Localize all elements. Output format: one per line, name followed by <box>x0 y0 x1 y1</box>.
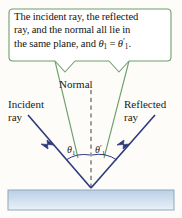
callout-box <box>9 9 171 72</box>
callout-tail-left-icon <box>55 61 78 158</box>
figure-vector-layer <box>0 0 182 218</box>
reflection-law-figure: The incident ray, the reflected ray, and… <box>0 0 182 218</box>
callout-tail-right-icon <box>104 61 129 158</box>
incident-ray <box>28 115 91 188</box>
reflected-ray <box>91 115 155 188</box>
reflecting-surface <box>8 190 174 210</box>
